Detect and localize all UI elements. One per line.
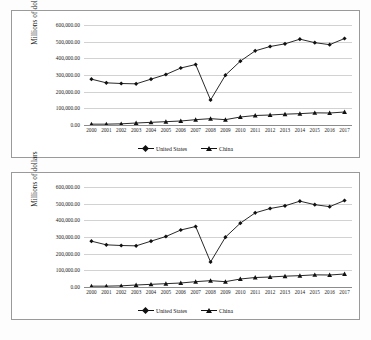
y-axis-tick-label: 0.00	[30, 122, 80, 128]
data-point-marker	[194, 224, 198, 228]
y-axis-tick-label: 500,000.00	[30, 39, 80, 45]
x-axis-line	[84, 287, 352, 288]
legend-item-china[interactable]: China	[201, 145, 233, 152]
triangle-marker-icon	[201, 145, 217, 152]
y-axis-tick-label: 400,000.00	[30, 217, 80, 223]
data-point-marker	[298, 199, 302, 203]
x-axis-tick-label: 2017	[334, 127, 356, 134]
plot-area-bottom: Millions of dollars 600,000.00500,000.00…	[12, 173, 359, 319]
y-axis-tick-label: 200,000.00	[30, 89, 80, 95]
series-line-united-states	[91, 39, 344, 101]
y-axis-tick-label: 400,000.00	[30, 55, 80, 61]
y-axis-title: Millions of dollars	[28, 137, 42, 221]
chart-united-states-china-top: Millions of dollars 600,000.00500,000.00…	[11, 10, 360, 158]
document-page: Millions of dollars 600,000.00500,000.00…	[0, 0, 371, 340]
data-point-marker	[298, 37, 302, 41]
data-point-marker	[119, 283, 124, 287]
data-point-marker	[342, 36, 346, 40]
series-line-united-states	[91, 201, 344, 263]
data-point-marker	[119, 243, 123, 247]
data-point-marker	[313, 203, 317, 207]
data-point-marker	[134, 82, 138, 86]
legend-label-united-states: United States	[156, 146, 187, 152]
y-axis-tick-label: 0.00	[30, 284, 80, 290]
data-point-marker	[283, 42, 287, 46]
y-axis-tick-label: 300,000.00	[30, 234, 80, 240]
series-line-china	[91, 112, 344, 124]
series-lines	[84, 25, 352, 125]
data-point-marker	[134, 244, 138, 248]
data-point-marker	[179, 228, 183, 232]
data-point-marker	[328, 43, 332, 47]
series-line-china	[91, 274, 344, 286]
data-point-marker	[104, 243, 108, 247]
plot-area-top: Millions of dollars 600,000.00500,000.00…	[12, 11, 359, 157]
data-point-marker	[179, 66, 183, 70]
data-point-marker	[164, 234, 168, 238]
y-axis-tick-label: 500,000.00	[30, 201, 80, 207]
y-axis-tick-label: 300,000.00	[30, 72, 80, 78]
legend-label-united-states: United States	[156, 308, 187, 314]
y-axis-tick-label: 600,000.00	[30, 184, 80, 190]
chart-legend: United States China	[12, 145, 359, 152]
x-axis-tick-label: 2017	[334, 289, 356, 296]
data-point-marker	[208, 260, 212, 264]
y-axis-tick-label: 100,000.00	[30, 105, 80, 111]
diamond-marker-icon	[138, 145, 154, 152]
data-point-marker	[119, 121, 124, 125]
x-axis-line	[84, 125, 352, 126]
y-axis-title: Millions of dollars	[28, 0, 42, 59]
data-point-marker	[283, 204, 287, 208]
data-point-marker	[194, 62, 198, 66]
series-lines	[84, 187, 352, 287]
data-point-marker	[328, 205, 332, 209]
data-point-marker	[119, 81, 123, 85]
legend-item-united-states[interactable]: United States	[138, 307, 187, 314]
data-point-marker	[89, 77, 93, 81]
y-axis-tick-label: 600,000.00	[30, 22, 80, 28]
y-axis-tick-label: 200,000.00	[30, 251, 80, 257]
figure-caption	[26, 326, 346, 335]
data-point-marker	[208, 98, 212, 102]
triangle-marker-icon	[201, 307, 217, 314]
data-point-marker	[342, 198, 346, 202]
data-point-marker	[164, 72, 168, 76]
data-point-marker	[149, 239, 153, 243]
legend-label-china: China	[219, 146, 233, 152]
legend-item-united-states[interactable]: United States	[138, 145, 187, 152]
data-point-marker	[268, 206, 272, 210]
data-point-marker	[89, 239, 93, 243]
legend-label-china: China	[219, 308, 233, 314]
diamond-marker-icon	[138, 307, 154, 314]
legend-item-china[interactable]: China	[201, 307, 233, 314]
y-axis-tick-label: 100,000.00	[30, 267, 80, 273]
data-point-marker	[313, 41, 317, 45]
chart-united-states-china-bottom: Millions of dollars 600,000.00500,000.00…	[11, 172, 360, 320]
data-point-marker	[104, 81, 108, 85]
data-point-marker	[149, 77, 153, 81]
data-point-marker	[268, 44, 272, 48]
chart-legend: United States China	[12, 307, 359, 314]
